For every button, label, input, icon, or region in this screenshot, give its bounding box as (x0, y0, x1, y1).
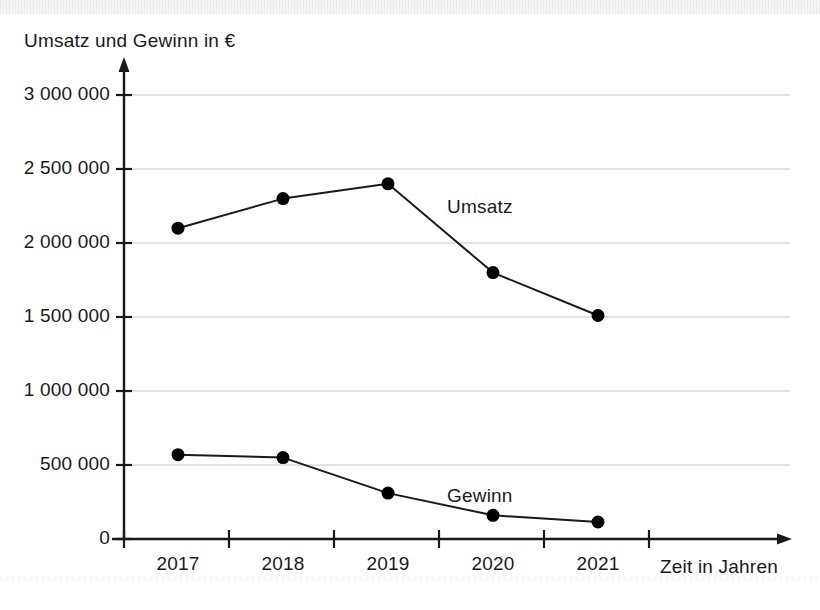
x-axis-tick-label: 2017 (126, 553, 231, 575)
x-axis-tick-label: 2018 (231, 553, 336, 575)
x-axis-title: Zeit in Jahren (660, 556, 778, 578)
y-axis-tick-label: 1 000 000 (0, 379, 110, 401)
y-axis-tick-label: 1 500 000 (0, 305, 110, 327)
y-axis-tick-label: 3 000 000 (0, 83, 110, 105)
y-axis-tick-label: 0 (0, 527, 110, 549)
series-label-gewinn: Gewinn (447, 485, 513, 507)
x-axis-arrow (777, 534, 792, 545)
data-point-gewinn-2017 (172, 448, 185, 461)
data-point-umsatz-2020 (487, 266, 500, 279)
data-point-gewinn-2021 (592, 515, 605, 528)
y-axis-title: Umsatz und Gewinn in € (24, 30, 235, 52)
y-axis-arrow (119, 57, 130, 72)
x-axis-tick-label: 2020 (441, 553, 546, 575)
data-series-markers (172, 177, 605, 528)
axes (112, 57, 792, 545)
gridlines (124, 95, 790, 465)
y-axis-tick-label: 2 500 000 (0, 157, 110, 179)
y-axis-tick-label: 2 000 000 (0, 231, 110, 253)
line-chart: Umsatz und Gewinn in € Zeit in Jahren 05… (0, 0, 820, 610)
x-axis-tick-label: 2021 (546, 553, 651, 575)
data-point-gewinn-2018 (277, 451, 290, 464)
data-series-lines (178, 184, 598, 522)
data-point-gewinn-2020 (487, 509, 500, 522)
data-point-umsatz-2017 (172, 222, 185, 235)
chart-canvas (0, 0, 820, 610)
data-point-umsatz-2021 (592, 309, 605, 322)
data-point-umsatz-2018 (277, 192, 290, 205)
data-point-umsatz-2019 (382, 177, 395, 190)
x-axis-tick-label: 2019 (336, 553, 441, 575)
data-point-gewinn-2019 (382, 487, 395, 500)
y-axis-tick-label: 500 000 (0, 453, 110, 475)
series-label-umsatz: Umsatz (447, 196, 513, 218)
series-line-umsatz (178, 184, 598, 316)
